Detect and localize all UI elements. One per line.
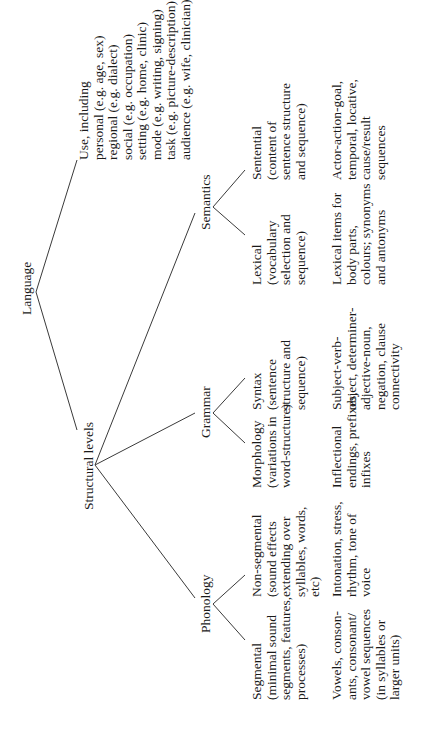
branch-semantics: Semantics xyxy=(199,175,213,231)
structural-levels: Structural levels xyxy=(82,422,96,510)
edge-semantics-lexical xyxy=(213,207,245,235)
edge-semantics-sentential xyxy=(213,170,245,207)
edge-language-structural xyxy=(36,292,77,430)
use-items: personal (e.g. age, sex) regional (e.g. … xyxy=(91,0,193,160)
leaf-syntax: Syntax (sentence structure and sequence) xyxy=(250,340,308,410)
edge-structural-phonology xyxy=(95,465,195,598)
leaf-sentential: Sentential (content of sentence structur… xyxy=(250,83,308,180)
example-segmental: Vowels, conson- ants, consonant/ vowel s… xyxy=(330,609,403,700)
branch-grammar: Grammar xyxy=(199,386,213,438)
edge-language-use xyxy=(36,160,77,292)
use-block: Use, including personal (e.g. age, sex) … xyxy=(77,0,193,160)
language-tree-diagram: Language Use, including personal (e.g. a… xyxy=(0,0,422,743)
example-sentential: Actor-action-goal, temporal, locative, c… xyxy=(330,79,388,180)
use-item: setting (e.g. home, clinic) xyxy=(134,22,149,160)
edge-grammar-syntax xyxy=(213,378,245,413)
leaf-morphology: Morphology (variations in word-structure… xyxy=(250,404,294,488)
example-nonsegmental: Intonation, stress, rhythm, tone of voic… xyxy=(330,501,374,597)
leaf-segmental: Segmental (minimal sound segments, featu… xyxy=(250,597,308,700)
leaf-lexical: Lexical (vocabulary selection and sequen… xyxy=(250,214,308,285)
use-item: personal (e.g. age, sex) xyxy=(91,36,106,160)
use-item: task (e.g. picture-description) xyxy=(163,1,178,160)
example-syntax: Subject-verb- object, determiner- adject… xyxy=(330,308,403,410)
use-item: regional (e.g. dialect) xyxy=(105,45,120,160)
leaf-nonsegmental: Non-segmental (sound effects extending o… xyxy=(250,507,323,597)
use-item: mode (e.g. writing, signing) xyxy=(149,9,164,160)
use-item: social (e.g. occupation) xyxy=(120,34,135,160)
root-language: Language xyxy=(20,262,34,315)
edge-phonology-segmental xyxy=(213,604,245,640)
use-label: Use, including xyxy=(76,81,91,160)
edge-grammar-morphology xyxy=(213,413,245,443)
use-item: audience (e.g. wife, clinician) xyxy=(178,0,193,160)
example-lexical: Lexical items for body parts, colours; s… xyxy=(330,183,388,285)
edge-structural-grammar xyxy=(95,413,195,465)
edge-phonology-nonsegmental xyxy=(213,575,245,604)
branch-phonology: Phonology xyxy=(199,574,213,633)
edge-structural-semantics xyxy=(95,213,195,465)
